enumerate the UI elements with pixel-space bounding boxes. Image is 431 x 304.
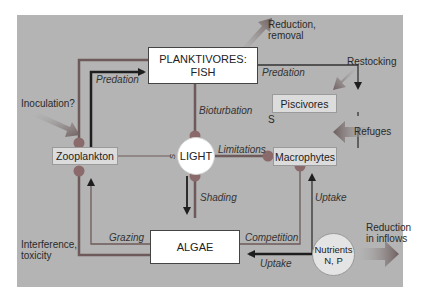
food-web-diagram: PLANKTIVORES: FISH Piscivores S Zooplank… [0, 0, 431, 304]
zooplankton-light-s-label: S [167, 154, 178, 159]
predation-left-label: Predation [96, 74, 139, 85]
fish-label: FISH [190, 66, 215, 79]
inoculation-arrow [35, 112, 80, 137]
uptake-macrophytes-label: Uptake [315, 192, 347, 203]
reduction-inflows-arrow [358, 241, 399, 267]
light-label: LIGHT [180, 150, 212, 162]
predation-right-label: Predation [262, 67, 305, 78]
bioturbation-label: Bioturbation [199, 105, 252, 116]
algae-label: ALGAE [177, 241, 214, 254]
reduction-removal-label: Reduction, removal [268, 19, 316, 41]
limitations-label: Limitations [218, 144, 266, 155]
macrophytes-label: Macrophytes [275, 151, 335, 163]
macrophytes-node: Macrophytes [273, 147, 337, 166]
shading-label: Shading [200, 192, 237, 203]
piscivores-s-label: S [268, 114, 275, 125]
uptake-algae-label: Uptake [260, 258, 292, 269]
nutrients-label: Nutrients [314, 244, 352, 255]
restocking-arrow [333, 67, 357, 90]
piscivores-node: Piscivores [272, 94, 337, 113]
light-node: LIGHT [177, 137, 215, 175]
piscivores-label: Piscivores [281, 98, 329, 110]
refuges-label: Refuges [354, 126, 391, 137]
zooplankton-label: Zooplankton [56, 150, 114, 162]
grazing-label: Grazing [109, 232, 144, 243]
reduction-inflows-label: Reduction in inflows [366, 222, 411, 244]
restocking-label: Restocking [347, 56, 396, 67]
planktivores-fish-node: PLANKTIVORES: FISH [148, 47, 258, 84]
nutrients-node: Nutrients N, P [312, 233, 355, 276]
planktivores-label: PLANKTIVORES: [159, 53, 246, 66]
competition-label: Competition [245, 232, 298, 243]
inoculation-label: Inoculation? [21, 98, 75, 109]
zooplankton-node: Zooplankton [52, 147, 118, 165]
algae-node: ALGAE [150, 230, 240, 264]
interference-toxicity-label: Interference, toxicity [21, 239, 77, 261]
nutrients-np-label: N, P [324, 255, 342, 266]
